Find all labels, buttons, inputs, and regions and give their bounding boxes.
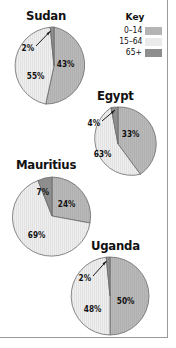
- slice-uganda-15-64: [71, 257, 110, 335]
- pie-uganda: 50% 48% 2%: [68, 254, 152, 338]
- slice-label-uganda-0-14: 50%: [117, 297, 135, 306]
- slice-label-egypt-65: 4%: [88, 119, 101, 128]
- slice-label-sudan-65: 2%: [22, 44, 35, 53]
- slice-uganda-0-14: [110, 257, 149, 335]
- legend: Key 0–14 15–64 65+: [108, 12, 166, 58]
- legend-item-0-14: 0–14: [108, 25, 162, 36]
- pie-mauritius: 24% 69% 7%: [10, 174, 94, 258]
- pie-mauritius-slices: [12, 177, 90, 256]
- legend-label-0-14: 0–14: [124, 26, 142, 35]
- pie-uganda-svg: [68, 254, 152, 338]
- legend-label-65-plus: 65+: [126, 48, 142, 57]
- legend-title: Key: [108, 12, 162, 22]
- slice-label-mauritius-0-14: 24%: [58, 200, 76, 209]
- slice-label-sudan-15-64: 55%: [27, 72, 45, 81]
- population-pyramid-pie-figure: Key 0–14 15–64 65+ Sudan: [0, 0, 176, 348]
- pie-sudan-svg: [12, 24, 96, 108]
- chart-title-egypt: Egypt: [97, 88, 134, 103]
- legend-swatch-0-14: [145, 27, 162, 35]
- pie-uganda-slices: [71, 257, 149, 335]
- legend-label-15-64: 15–64: [119, 37, 142, 46]
- legend-swatch-65-plus: [145, 49, 162, 57]
- chart-title-mauritius: Mauritius: [16, 157, 76, 172]
- slice-label-egypt-0-14: 33%: [122, 130, 140, 139]
- pie-egypt: 33% 63% 4%: [78, 104, 158, 184]
- pie-sudan: 43% 55% 2%: [12, 24, 96, 108]
- pie-egypt-slices: [95, 107, 156, 175]
- slice-label-uganda-15-64: 48%: [84, 305, 102, 314]
- slice-label-uganda-65: 2%: [79, 274, 92, 283]
- pie-egypt-svg: [78, 104, 158, 184]
- chart-title-sudan: Sudan: [26, 8, 66, 23]
- slice-sudan-15-64: [15, 27, 54, 104]
- slice-label-mauritius-15-64: 69%: [28, 231, 46, 240]
- figure-right-rule: [167, 0, 168, 337]
- legend-item-15-64: 15–64: [108, 36, 162, 47]
- legend-swatch-15-64: [145, 38, 162, 46]
- slice-label-mauritius-65: 7%: [37, 188, 50, 197]
- slice-label-sudan-0-14: 43%: [57, 60, 75, 69]
- pie-mauritius-svg: [10, 174, 94, 258]
- legend-item-65-plus: 65+: [108, 47, 162, 58]
- slice-label-egypt-15-64: 63%: [94, 150, 112, 159]
- chart-title-uganda: Uganda: [91, 238, 140, 253]
